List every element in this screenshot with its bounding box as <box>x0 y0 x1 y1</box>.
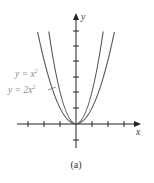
y-axis-label: y <box>80 11 86 22</box>
parabola-chart: y = x2 y = 2x2 y x (a) <box>0 0 154 183</box>
label-y-equals-2x-squared: y = 2x2 <box>7 83 36 95</box>
y-axis-arrow-icon <box>73 13 79 20</box>
x-axis-label: x <box>135 126 141 137</box>
label-y-equals-x-squared: y = x2 <box>14 67 39 79</box>
figure-caption: (a) <box>70 159 81 171</box>
